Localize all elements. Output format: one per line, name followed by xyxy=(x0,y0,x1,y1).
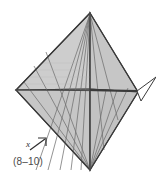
axis-label-x: x xyxy=(26,140,30,149)
axis-horizontal-emphasis xyxy=(90,90,137,91)
figure-caption: (8–10) xyxy=(13,156,43,168)
figure-root: x (8–10) xyxy=(0,0,156,190)
right-flap-triangle xyxy=(137,77,156,101)
